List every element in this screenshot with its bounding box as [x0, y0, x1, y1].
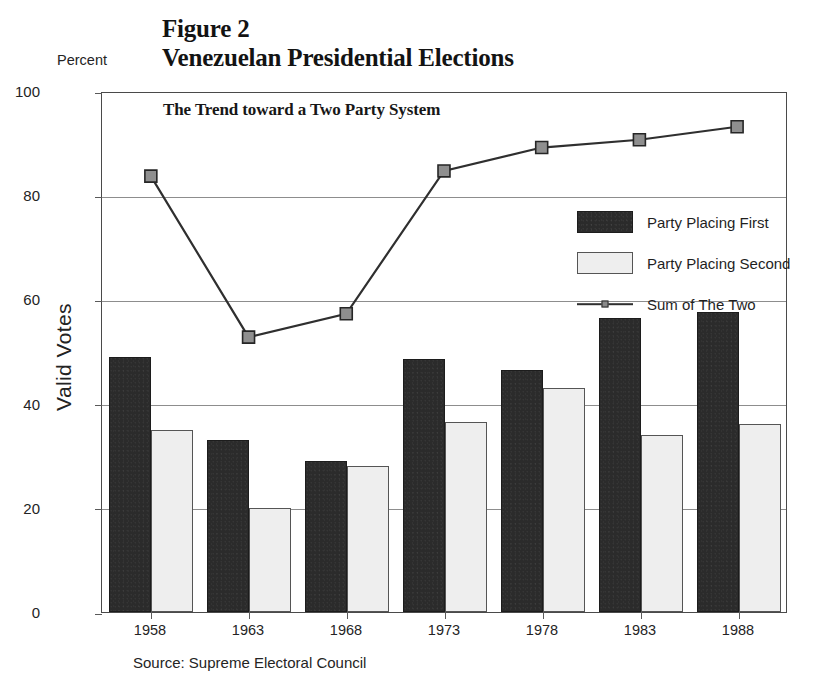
figure-title: Venezuelan Presidential Elections: [162, 43, 782, 73]
x-tick-mark: [641, 612, 642, 619]
figure-subtitle: The Trend toward a Two Party System: [163, 100, 440, 120]
y-tick-mark: [95, 301, 102, 302]
bar-party-placing-first: [599, 318, 641, 612]
legend-label: Sum of The Two: [647, 296, 756, 313]
chart-legend: Party Placing FirstParty Placing SecondS…: [577, 211, 790, 315]
x-tick-label: 1983: [595, 622, 685, 638]
bar-party-placing-first: [305, 461, 347, 612]
y-tick-mark: [95, 93, 102, 94]
y-tick-mark: [95, 405, 102, 406]
legend-item: Sum of The Two: [577, 293, 790, 315]
y-tick-label: 80: [0, 187, 40, 204]
bar-party-placing-first: [109, 357, 151, 612]
legend-swatch-line-with-square-marker-icon: [577, 293, 633, 315]
source-note: Source: Supreme Electoral Council: [133, 654, 366, 671]
figure-number: Figure 2: [162, 14, 782, 43]
x-tick-label: 1978: [497, 622, 587, 638]
y-gridline: [102, 197, 786, 198]
figure-title-block: Figure 2 Venezuelan Presidential Electio…: [162, 14, 782, 73]
y-tick-mark: [95, 509, 102, 510]
x-tick-mark: [739, 612, 740, 619]
x-tick-label: 1988: [693, 622, 783, 638]
x-tick-mark: [543, 612, 544, 619]
legend-label: Party Placing Second: [647, 255, 790, 272]
bar-party-placing-first: [501, 370, 543, 612]
x-tick-label: 1958: [105, 622, 195, 638]
bar-party-placing-second: [151, 430, 193, 612]
x-tick-mark: [151, 612, 152, 619]
plot-inner: [102, 93, 786, 612]
y-tick-mark: [95, 614, 102, 615]
y-tick-label: 20: [0, 500, 40, 517]
x-tick-label: 1968: [301, 622, 391, 638]
bar-party-placing-second: [739, 424, 781, 612]
legend-item: Party Placing First: [577, 211, 790, 233]
bar-party-placing-second: [543, 388, 585, 612]
bar-party-placing-first: [697, 312, 739, 612]
y-tick-label: 0: [0, 604, 40, 621]
bar-party-placing-second: [641, 435, 683, 612]
y-axis-unit-label: Percent: [57, 52, 107, 68]
y-tick-label: 60: [0, 291, 40, 308]
bar-party-placing-first: [207, 440, 249, 612]
chart-plot-area: 020406080100: [101, 92, 787, 613]
bar-party-placing-second: [347, 466, 389, 612]
legend-label: Party Placing First: [647, 214, 769, 231]
y-tick-label: 100: [0, 83, 40, 100]
bar-party-placing-second: [445, 422, 487, 612]
bar-party-placing-first: [403, 359, 445, 612]
y-axis-title: Valid Votes: [52, 257, 76, 457]
x-tick-label: 1973: [399, 622, 489, 638]
x-tick-mark: [347, 612, 348, 619]
x-tick-mark: [445, 612, 446, 619]
x-tick-mark: [249, 612, 250, 619]
legend-swatch-filled-light-square-icon: [577, 252, 633, 274]
bar-party-placing-second: [249, 508, 291, 612]
legend-item: Party Placing Second: [577, 252, 790, 274]
y-tick-label: 40: [0, 396, 40, 413]
legend-swatch-filled-dark-square-icon: [577, 211, 633, 233]
x-tick-label: 1963: [203, 622, 293, 638]
y-tick-mark: [95, 197, 102, 198]
